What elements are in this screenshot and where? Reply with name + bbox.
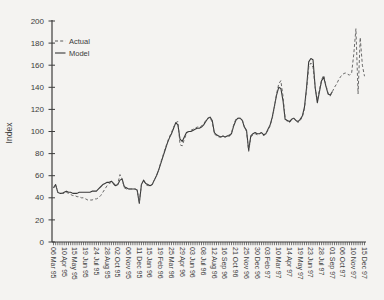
y-tick-label: 140: [31, 83, 45, 92]
x-tick-label: 03 Feb 97: [264, 247, 271, 279]
series-actual: [54, 29, 365, 202]
x-tick-label: 06 Mar 95: [50, 247, 57, 279]
x-tick-label: 25 Nov 96: [243, 247, 250, 279]
y-tick-label: 180: [31, 39, 45, 48]
legend-label-model: Model: [69, 49, 90, 58]
chart-figure: 020406080100120140160180200Index06 Mar 9…: [0, 0, 384, 300]
y-tick-label: 120: [31, 105, 45, 114]
y-tick-label: 80: [35, 149, 44, 158]
x-tick-label: 30 Dec 96: [254, 247, 261, 279]
x-tick-label: 11 Dec 95: [136, 247, 143, 278]
x-tick-label: 02 Oct 95: [114, 247, 121, 277]
x-tick-label: 10 Mar 97: [275, 247, 282, 279]
x-tick-label: 06 Nov 95: [125, 247, 132, 279]
legend-label-actual: Actual: [69, 37, 90, 46]
x-tick-label: 12 Aug 96: [210, 247, 218, 279]
x-tick-label: 03 Jun 96: [189, 247, 196, 278]
x-tick-label: 28 Aug 95: [103, 247, 111, 279]
x-tick-label: 15 Dec 97: [361, 247, 368, 279]
x-tick-label: 15 Jan 96: [146, 247, 153, 278]
y-tick-label: 160: [31, 61, 45, 70]
y-tick-label: 0: [40, 238, 45, 247]
x-tick-label: 29 Apr 96: [178, 247, 186, 277]
y-axis-title: Index: [4, 122, 14, 144]
y-tick-label: 60: [35, 171, 44, 180]
x-tick-label: 19 Feb 96: [157, 247, 164, 279]
line-chart: 020406080100120140160180200Index06 Mar 9…: [0, 0, 384, 300]
x-tick-label: 01 Sep 97: [328, 247, 336, 279]
x-tick-label: 10 Apr 95: [60, 247, 68, 277]
x-tick-label: 19 May 97: [296, 247, 304, 280]
x-tick-label: 10 Nov 97: [350, 247, 357, 279]
x-tick-label: 21 Oct 96: [232, 247, 239, 277]
x-tick-label: 06 Oct 97: [339, 247, 346, 277]
x-tick-label: 25 Mar 96: [168, 247, 175, 279]
x-tick-label: 19 Jun 95: [82, 247, 89, 278]
x-tick-label: 24 Jul 95: [93, 247, 100, 276]
series-model: [54, 59, 333, 204]
y-tick-label: 200: [31, 17, 45, 26]
x-tick-label: 23 Jun 97: [307, 247, 314, 278]
x-tick-label: 28 Jul 97: [318, 247, 325, 276]
x-tick-label: 08 Jul 96: [200, 247, 207, 276]
x-tick-label: 15 May 95: [70, 247, 78, 280]
y-tick-label: 40: [35, 193, 44, 202]
y-tick-label: 20: [35, 216, 44, 225]
x-tick-label: 14 Apr 97: [285, 247, 293, 277]
y-tick-label: 100: [31, 127, 45, 136]
x-tick-label: 16 Sep 96: [220, 247, 228, 279]
